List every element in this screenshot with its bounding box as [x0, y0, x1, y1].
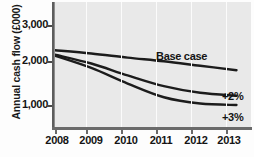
- gridline-2010: [121, 2, 122, 128]
- gridline-2011: [156, 2, 157, 128]
- line-plus-2-percent: [55, 55, 236, 96]
- plot-area: [55, 2, 251, 128]
- x-tick-label-2010: 2010: [106, 134, 146, 146]
- x-tick-label-2013: 2013: [209, 134, 249, 146]
- series-label-plus-2-percent: +2%: [222, 90, 243, 102]
- x-tick-label-2009: 2009: [71, 134, 111, 146]
- series-lines: [55, 2, 251, 128]
- x-axis-line: [52, 127, 252, 130]
- series-label-base-case: Base case: [156, 50, 207, 62]
- y-tick-label-1000: 1,000: [4, 99, 48, 110]
- y-tick-label-2000: 2,000: [4, 55, 48, 66]
- x-tick-label-2011: 2011: [141, 134, 181, 146]
- gridline-2012: [191, 2, 192, 128]
- y-tick-label-3000: 3,000: [4, 19, 48, 30]
- series-label-plus-3-percent: +3%: [222, 111, 243, 123]
- chart-container: Annual cash flow (£000) 1,000 2,000 3,00…: [0, 0, 254, 157]
- gridline-2013: [226, 2, 227, 128]
- gridline-2009: [86, 2, 87, 128]
- y-axis-line-highlight: [54, 2, 55, 130]
